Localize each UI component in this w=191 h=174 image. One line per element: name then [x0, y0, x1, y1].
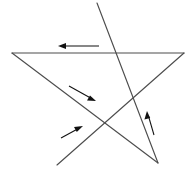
- arrow-lower-left-up-right-head: [74, 126, 83, 132]
- path-segments: [12, 3, 184, 165]
- figure-canvas: [0, 0, 191, 174]
- arrow-lower-left-up-right: [61, 126, 83, 138]
- segment-left-to-bottom-right: [12, 53, 158, 163]
- arrow-right-up-left-shaft: [149, 117, 154, 136]
- arrow-upper-left-down-right-shaft: [69, 86, 91, 98]
- star-path-diagram: [0, 0, 191, 174]
- arrow-top-leftward-head: [58, 43, 66, 49]
- segment-bottom-left-to-right: [57, 53, 184, 165]
- arrow-top-leftward: [58, 43, 99, 49]
- segment-bottom-right-to-top-apex: [97, 3, 158, 163]
- arrow-lower-left-up-right-shaft: [61, 129, 78, 138]
